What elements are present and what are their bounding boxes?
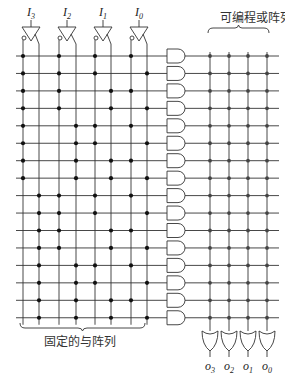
fixed-connection-dot (57, 89, 61, 93)
fixed-connection-dot (21, 89, 25, 93)
and-gate-icon (167, 276, 185, 290)
or-gate-o2: o2 (221, 331, 237, 375)
programmable-fuse-dot (246, 264, 250, 268)
and-gate-icon (167, 241, 185, 255)
and-gate-icon (167, 119, 185, 133)
fixed-connection-dot (145, 246, 149, 250)
and-gate-icon (167, 66, 185, 80)
fixed-connection-dot (93, 54, 97, 58)
programmable-fuse-dot (265, 159, 269, 163)
programmable-fuse-dot (246, 54, 250, 58)
fixed-connection-dot (145, 141, 149, 145)
and-array-label: 固定的与阵列 (44, 334, 116, 349)
programmable-fuse-dot (208, 106, 212, 110)
fixed-connection-dot (109, 316, 113, 320)
and-gate-icon (167, 224, 185, 238)
inverter-bubble-icon (22, 36, 26, 40)
and-row-m12 (16, 263, 167, 267)
inverter-bubble-icon (130, 36, 134, 40)
fixed-connection-dot (74, 141, 78, 145)
fixed-connection-dot (21, 141, 25, 145)
or-gate-o1: o1 (240, 331, 256, 375)
fixed-connection-dot (145, 176, 149, 180)
input-buffer-i1: I1 (94, 5, 112, 325)
fixed-connection-dot (57, 71, 61, 75)
or-gate-icon (240, 331, 256, 351)
input-buffer-i2: I2 (58, 5, 76, 325)
fixed-connection-dot (129, 54, 133, 58)
fixed-connection-dot (145, 281, 149, 285)
programmable-fuse-dot (246, 298, 250, 302)
and-gate-icon (167, 49, 185, 63)
fixed-connection-dot (93, 211, 97, 215)
input-label: I3 (26, 5, 35, 21)
programmable-fuse-dot (227, 141, 231, 145)
and-row-m9 (16, 211, 167, 215)
programmable-fuse-dot (246, 72, 250, 76)
programmable-fuse-dot (208, 298, 212, 302)
programmable-fuse-dot (227, 106, 231, 110)
fixed-connection-dot (74, 316, 78, 320)
input-buffers: I3I2I1I0 (22, 5, 148, 325)
programmable-fuse-dot (246, 281, 250, 285)
programmable-or-array (185, 52, 279, 331)
programmable-fuse-dot (227, 159, 231, 163)
input-label: I2 (62, 5, 71, 21)
programmable-fuse-dot (208, 176, 212, 180)
programmable-fuse-dot (208, 89, 212, 93)
and-gate-icon (167, 311, 185, 325)
output-label: o2 (224, 359, 234, 375)
fixed-connection-dot (109, 246, 113, 250)
fixed-connection-dot (57, 106, 61, 110)
fixed-connection-dot (74, 124, 78, 128)
and-row-m15 (16, 316, 167, 320)
programmable-fuse-dot (265, 141, 269, 145)
programmable-fuse-dot (227, 316, 231, 320)
programmable-fuse-dot (265, 246, 269, 250)
or-gate-icon (221, 331, 237, 351)
and-row-m10 (16, 228, 167, 232)
input-buffer-i0: I0 (130, 5, 148, 325)
fixed-connection-dot (37, 281, 41, 285)
programmable-fuse-dot (246, 246, 250, 250)
programmable-fuse-dot (265, 281, 269, 285)
fixed-connection-dot (37, 246, 41, 250)
programmable-fuse-dot (227, 264, 231, 268)
fixed-connection-dot (145, 211, 149, 215)
programmable-fuse-dot (208, 124, 212, 128)
output-label: o0 (262, 359, 272, 375)
fixed-connection-dot (21, 106, 25, 110)
programmable-fuse-dot (227, 281, 231, 285)
fixed-connection-dot (37, 316, 41, 320)
programmable-fuse-dot (265, 72, 269, 76)
or-gate-icon (259, 331, 275, 351)
and-gate-icon (167, 136, 185, 150)
fixed-connection-dot (93, 194, 97, 198)
and-gate-icon (167, 206, 185, 220)
and-gate-icon (167, 293, 185, 307)
programmable-fuse-dot (208, 211, 212, 215)
fixed-connection-dot (109, 106, 113, 110)
fixed-connection-dot (37, 298, 41, 302)
programmable-fuse-dot (265, 176, 269, 180)
fixed-connection-dot (145, 71, 149, 75)
fixed-connection-dot (37, 263, 41, 267)
programmable-fuse-dot (227, 229, 231, 233)
and-row-m14 (16, 298, 167, 302)
and-row-m8 (16, 194, 167, 198)
fixed-connection-dot (74, 263, 78, 267)
or-gate-o0: o0 (259, 331, 275, 375)
output-label: o1 (243, 359, 253, 375)
programmable-fuse-dot (208, 159, 212, 163)
programmable-fuse-dot (246, 316, 250, 320)
programmable-fuse-dot (265, 298, 269, 302)
fixed-connection-dot (93, 71, 97, 75)
fixed-connection-dot (93, 263, 97, 267)
fixed-connection-dot (21, 159, 25, 163)
fixed-connection-dot (109, 176, 113, 180)
and-array-label-group: 固定的与阵列 (20, 323, 145, 349)
programmable-fuse-dot (246, 106, 250, 110)
programmable-fuse-dot (246, 194, 250, 198)
programmable-fuse-dot (208, 316, 212, 320)
programmable-fuse-dot (265, 316, 269, 320)
